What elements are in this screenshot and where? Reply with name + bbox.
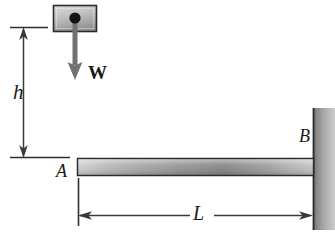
cantilever-beam-group xyxy=(78,159,314,176)
label-a: A xyxy=(56,162,67,180)
label-b: B xyxy=(299,127,310,145)
cantilever-beam-shading xyxy=(78,159,313,175)
label-h: h xyxy=(13,82,24,103)
center-of-mass-dot xyxy=(69,12,80,23)
label-l: L xyxy=(193,203,204,223)
figure-canvas xyxy=(0,0,335,240)
mechanics-figure: h W A B L xyxy=(0,0,335,240)
wall-body xyxy=(313,108,335,230)
weight-arrow-shaft xyxy=(73,18,78,65)
fixed-support-wall xyxy=(313,108,335,230)
label-w: W xyxy=(88,63,107,82)
